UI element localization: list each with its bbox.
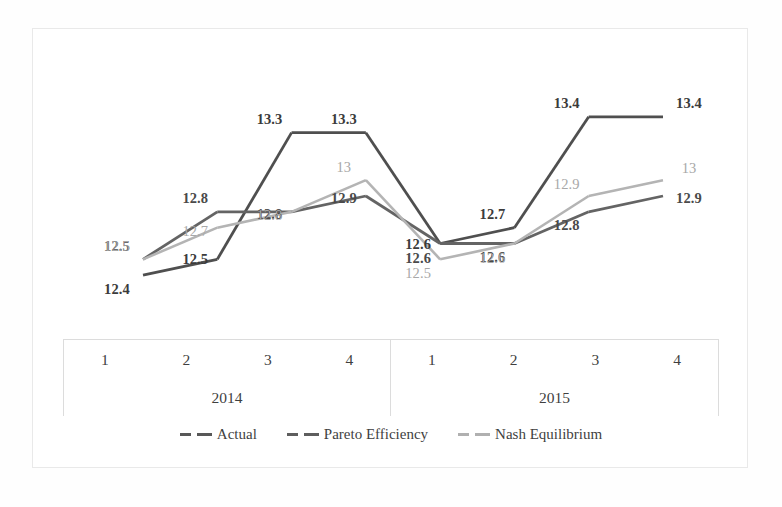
data-label: 12.4 — [104, 282, 130, 297]
legend-line-icon-pareto-efficiency — [287, 433, 319, 436]
plot-area: 12.412.513.313.312.612.713.413.412.512.8… — [33, 29, 749, 347]
series-lines — [33, 29, 749, 347]
data-label: 12.7 — [182, 223, 208, 238]
data-label: 12.8 — [182, 191, 208, 206]
axis-tick-2014-q2: 2 — [146, 340, 228, 380]
legend-item-actual[interactable]: Actual — [180, 426, 257, 443]
data-label: 12.9 — [331, 191, 357, 206]
data-label: 12.9 — [554, 177, 580, 192]
data-label: 12.8 — [554, 218, 580, 233]
chart-legend: Actual Pareto Efficiency Nash Equilibriu… — [33, 419, 749, 449]
data-label: 12.6 — [480, 250, 506, 265]
axis-tick-2015-q2: 2 — [473, 340, 555, 380]
chart-container: 12.412.513.313.312.612.713.413.412.512.8… — [0, 0, 782, 507]
data-label: 13.3 — [257, 111, 283, 126]
axis-tick-2014-q1: 1 — [64, 340, 146, 380]
axis-tick-2015-q3: 3 — [555, 340, 637, 380]
axis-group-2014: 1 2 3 4 2014 — [63, 340, 391, 416]
data-label: 13 — [336, 160, 351, 175]
data-label: 12.8 — [257, 208, 283, 223]
axis-tick-2014-q3: 3 — [227, 340, 309, 380]
axis-year-label-2014: 2014 — [64, 380, 390, 416]
legend-label-pareto-efficiency: Pareto Efficiency — [324, 426, 428, 443]
legend-item-nash-equilibrium[interactable]: Nash Equilibrium — [458, 426, 602, 443]
data-label: 13.4 — [554, 96, 580, 111]
legend-label-actual: Actual — [217, 426, 257, 443]
category-axis: 1 2 3 4 2014 1 2 3 4 2015 — [33, 339, 749, 415]
data-label: 12.9 — [676, 191, 702, 206]
quarter-row-2015: 1 2 3 4 — [391, 340, 718, 380]
legend-label-nash-equilibrium: Nash Equilibrium — [495, 426, 602, 443]
data-label: 13.4 — [676, 96, 702, 111]
axis-table: 1 2 3 4 2014 1 2 3 4 2015 — [63, 339, 719, 415]
legend-line-icon-nash-equilibrium — [458, 433, 490, 436]
legend-item-pareto-efficiency[interactable]: Pareto Efficiency — [287, 426, 428, 443]
axis-tick-2015-q4: 4 — [636, 340, 718, 380]
data-label: 13 — [682, 161, 697, 176]
axis-group-2015: 1 2 3 4 2015 — [391, 340, 719, 416]
quarter-row-2014: 1 2 3 4 — [64, 340, 390, 380]
axis-tick-2015-q1: 1 — [391, 340, 473, 380]
data-label: 13.3 — [331, 111, 357, 126]
data-label: 12.7 — [480, 206, 506, 221]
chart-frame: 12.412.513.313.312.612.713.413.412.512.8… — [32, 28, 748, 468]
axis-tick-2014-q4: 4 — [309, 340, 391, 380]
data-label: 12.5 — [405, 266, 431, 281]
data-label: 12.5 — [104, 239, 130, 254]
data-label: 12.5 — [182, 252, 208, 267]
axis-year-label-2015: 2015 — [391, 380, 718, 416]
legend-line-icon-actual — [180, 433, 212, 436]
data-label: 12.6 — [405, 250, 431, 265]
